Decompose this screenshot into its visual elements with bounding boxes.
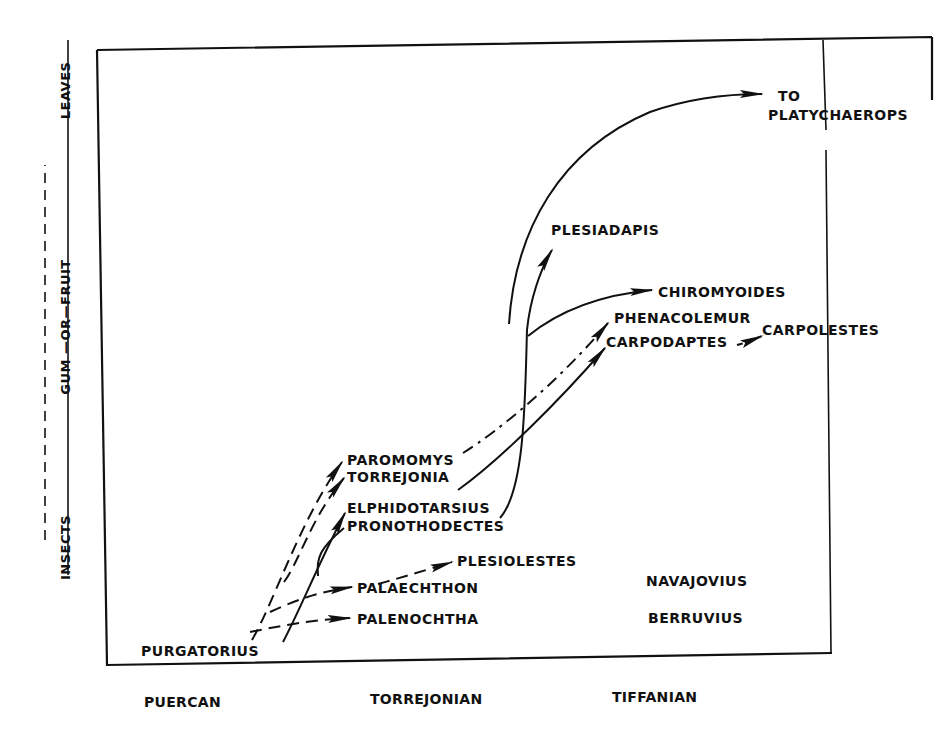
lineage-purgatorius-torrejonia [284, 478, 344, 582]
taxon-platychaerops: PLATYCHAEROPS [768, 107, 908, 123]
y-axis-fruit: FRUIT [58, 259, 73, 305]
taxon-plesiolestes: PLESIOLESTES [457, 553, 577, 569]
taxon-purgatorius: PURGATORIUS [141, 643, 259, 659]
lineage-purgatorius-palenochtha [250, 618, 350, 632]
lineage-paromomys-phenacolemur [463, 323, 608, 453]
taxon-elphidotarsius: ELPHIDOTARSIUS [347, 500, 490, 516]
epoch-tiffanian: TIFFANIAN [612, 689, 697, 705]
y-axis-leaves: LEAVES [58, 62, 73, 120]
diagram-frame [97, 37, 932, 665]
taxon-berruvius: BERRUVIUS [648, 610, 743, 626]
taxon-pronothodectes: PRONOTHODECTES [347, 518, 504, 534]
epoch-torrejonian: TORREJONIAN [370, 691, 482, 707]
taxon-carpolestes: CARPOLESTES [762, 322, 879, 338]
lineage-purgatorius-palaechthon [270, 587, 352, 612]
lineage-pronothodectes-plesiadapis [500, 250, 552, 518]
lineage-purgatorius-elphidotarsius [283, 513, 345, 642]
y-axis-insects: INSECTS [58, 515, 73, 580]
y-axis-or: OR [58, 318, 73, 340]
taxon-navajovius: NAVAJOVIUS [646, 573, 748, 589]
taxon-palaechthon: PALAECHTHON [357, 580, 479, 596]
taxon-plesiadapis: PLESIADAPIS [551, 222, 659, 238]
taxon-palenochtha: PALENOCHTHA [357, 611, 479, 627]
taxon-carpodaptes: CARPODAPTES [606, 334, 727, 350]
diagram-frame-right [823, 40, 831, 653]
epoch-puercan: PUERCAN [144, 694, 221, 710]
lineage-carpodaptes-carpolestes [737, 336, 762, 345]
lineage-elphidotarsius-carpodaptes [458, 348, 605, 490]
lineage-purgatorius-pronothodectes [318, 528, 344, 576]
y-axis-main-label: INSECTS GUM —OR—FRUIT LEAVES [58, 62, 73, 580]
taxon-to: TO [778, 88, 800, 104]
taxon-paromomys: PAROMOMYS [347, 452, 454, 468]
y-axis-gum: GUM [58, 359, 73, 395]
taxon-torrejonia: TORREJONIA [347, 469, 449, 485]
taxon-chiromyoides: CHIROMYOIDES [658, 284, 786, 300]
taxon-phenacolemur: PHENACOLEMUR [614, 310, 751, 326]
